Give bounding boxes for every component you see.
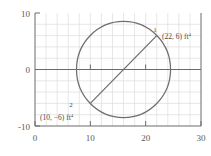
point-1-marker-label: 1: [153, 26, 157, 34]
point-2-annotation: (10, −6)ft4: [40, 113, 74, 122]
point-1-coords: (22, 6): [162, 32, 182, 41]
point-2-marker-label: 2: [69, 101, 73, 109]
x-tick-label-0: 0: [33, 133, 38, 143]
mohrs-circle-plot: 10 0 -10 0 10 20 30 1 (22, 6)ft4 2 (10, …: [0, 0, 211, 156]
svg-text:(22, 6)ft4: (22, 6)ft4: [162, 32, 192, 41]
x-tick-label-10: 10: [86, 133, 96, 143]
point-1-annotation: (22, 6)ft4: [162, 32, 192, 41]
x-tick-label-30: 30: [197, 133, 207, 143]
svg-text:(10, −6)ft4: (10, −6)ft4: [40, 113, 74, 122]
y-tick-label-0: 0: [26, 65, 31, 75]
x-tick-label-20: 20: [141, 133, 151, 143]
point-2-coords: (10, −6): [40, 113, 65, 122]
y-tick-label-neg10: -10: [18, 122, 30, 132]
y-tick-label-10: 10: [21, 9, 31, 19]
figure-container: 10 0 -10 0 10 20 30 1 (22, 6)ft4 2 (10, …: [0, 0, 211, 156]
